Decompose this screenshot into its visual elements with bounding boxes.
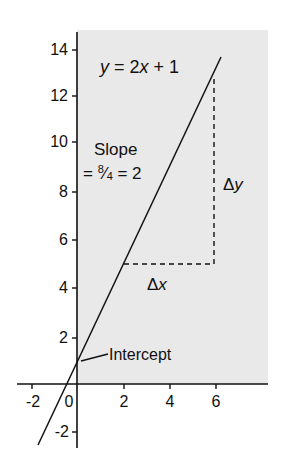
y-tick-label-14: 14 [40,42,68,58]
intercept-label: Intercept [109,347,171,363]
equation-x: x [140,57,149,77]
x-tick-label-6: 6 [204,394,228,410]
slope-eq-suffix: = 2 [113,164,142,183]
delta-x-label: Δx [147,276,167,293]
slope-value: = 8⁄4 = 2 [83,164,142,182]
equation-mid: = 2 [109,57,140,77]
y-tick-label-8: 8 [40,184,68,200]
shaded-quadrant [77,30,268,384]
slope-word: Slope [94,141,137,158]
x-tick-label-4: 4 [158,394,182,410]
x-tick-label-neg2: -2 [21,394,45,410]
y-tick-label-6: 6 [40,232,68,248]
x-tick-label-0: 0 [57,394,81,410]
y-tick-label-12: 12 [40,88,68,104]
delta-y-label: Δy [223,176,243,193]
y-tick-label-2: 2 [40,330,68,346]
delta-y-var: y [234,175,243,194]
equation-end: + 1 [149,57,180,77]
y-tick-label-neg2: -2 [41,424,69,440]
y-tick-label-4: 4 [40,280,68,296]
x-tick-label-2: 2 [112,394,136,410]
delta-x-symbol: Δ [147,275,158,294]
delta-x-var: x [158,275,167,294]
y-tick-label-10: 10 [40,134,68,150]
slope-eq-prefix: = [83,164,98,183]
equation-label: y = 2x + 1 [100,58,179,76]
delta-y-symbol: Δ [223,175,234,194]
equation-y: y [100,57,109,77]
